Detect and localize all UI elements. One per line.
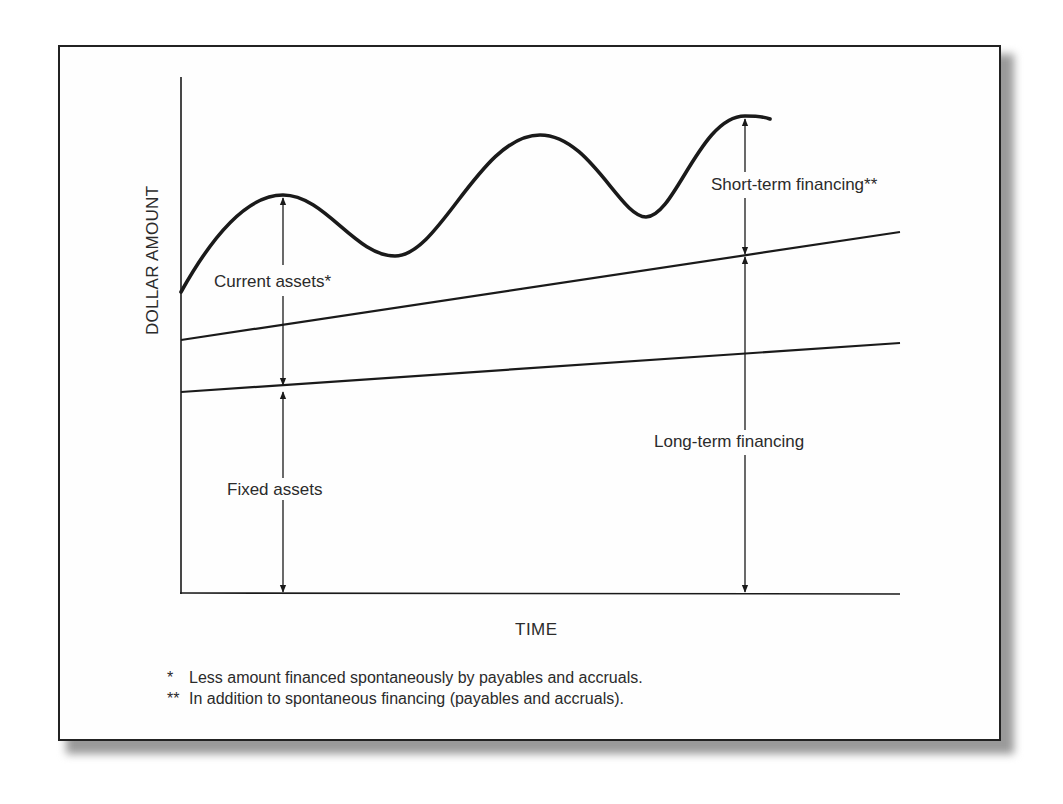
x-axis — [180, 593, 900, 594]
footnote-2-mark: ** — [167, 690, 189, 708]
current-assets-label: Current assets* — [214, 272, 331, 292]
fixed-assets-label: Fixed assets — [227, 480, 322, 500]
footnote-1-mark: * — [167, 669, 189, 687]
short-term-financing-label: Short-term financing** — [711, 175, 877, 195]
fixed-assets-line — [181, 343, 900, 392]
footnote-2: **In addition to spontaneous financing (… — [167, 690, 624, 708]
footnote-2-text: In addition to spontaneous financing (pa… — [189, 690, 624, 707]
footnote-1-text: Less amount financed spontaneously by pa… — [189, 669, 643, 686]
footnote-1: *Less amount financed spontaneously by p… — [167, 669, 643, 687]
long-term-financing-label: Long-term financing — [654, 432, 804, 452]
y-axis-label: DOLLAR AMOUNT — [143, 186, 163, 335]
x-axis-label: TIME — [515, 620, 558, 640]
